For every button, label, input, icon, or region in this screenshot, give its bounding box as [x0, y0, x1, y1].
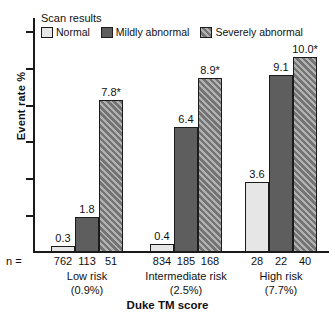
bar[interactable] — [75, 217, 99, 252]
n-value: 113 — [75, 255, 99, 267]
bar-value-label: 3.6 — [249, 168, 264, 180]
n-value: 22 — [269, 255, 293, 267]
n-values-row: 282240 — [245, 255, 317, 267]
group-name-label: Intermediate risk — [145, 270, 226, 282]
plot-area: 0.31.87.8*0.46.48.9*3.69.110.0* — [35, 18, 329, 252]
bar[interactable] — [245, 182, 269, 252]
bar-chart: Event rate % Scan results NormalMildly a… — [0, 0, 335, 317]
group-percent-label: (0.9%) — [71, 284, 103, 296]
y-axis-tick — [26, 68, 34, 70]
bar[interactable] — [51, 246, 75, 252]
group-name-label: Low risk — [67, 270, 107, 282]
n-value: 762 — [51, 255, 75, 267]
y-axis-tick — [26, 31, 34, 33]
y-axis-tick — [26, 215, 34, 217]
n-value: 185 — [174, 255, 198, 267]
bar-value-label: 9.1 — [273, 61, 288, 73]
n-values-row: 76211351 — [51, 255, 123, 267]
bar-value-label: 0.4 — [154, 230, 169, 242]
n-value: 51 — [99, 255, 123, 267]
bar-group: 0.31.87.8* — [51, 18, 125, 252]
bar-value-label: 7.8* — [101, 86, 121, 98]
bar[interactable] — [269, 75, 293, 252]
group-percent-label: (2.5%) — [170, 284, 202, 296]
n-value: 834 — [150, 255, 174, 267]
bar-value-label: 6.4 — [178, 113, 193, 125]
bar[interactable] — [99, 100, 123, 252]
x-axis-title: Duke TM score — [0, 299, 335, 311]
bar[interactable] — [293, 57, 317, 252]
n-value: 28 — [245, 255, 269, 267]
n-value: 40 — [293, 255, 317, 267]
n-value: 168 — [198, 255, 222, 267]
group-percent-label: (7.7%) — [265, 284, 297, 296]
group-name-label: High risk — [260, 270, 303, 282]
bar[interactable] — [150, 244, 174, 252]
y-axis-tick — [26, 178, 34, 180]
n-values-row: 834185168 — [150, 255, 222, 267]
bar-value-label: 10.0* — [292, 43, 318, 55]
bar-group: 3.69.110.0* — [245, 18, 319, 252]
bar[interactable] — [198, 78, 222, 252]
bar[interactable] — [174, 127, 198, 252]
bar-value-label: 1.8 — [79, 203, 94, 215]
bar-value-label: 0.3 — [55, 232, 70, 244]
y-axis-tick — [26, 141, 34, 143]
n-prefix-label: n = — [6, 255, 22, 267]
bar-group: 0.46.48.9* — [150, 18, 224, 252]
bar-value-label: 8.9* — [200, 64, 220, 76]
y-axis-tick — [26, 105, 34, 107]
